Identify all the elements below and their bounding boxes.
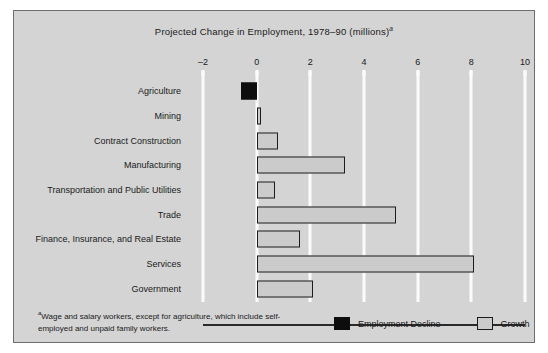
category-label: Services (146, 259, 181, 269)
bar-row: Finance, Insurance, and Real Estate (203, 227, 525, 252)
bar-row: Contract Construction (203, 128, 525, 153)
bar-row: Services (203, 252, 525, 277)
chart-footnote: aWage and salary workers, except for agr… (38, 307, 300, 335)
category-label: Transportation and Public Utilities (47, 185, 181, 195)
legend-swatch-decline-icon (334, 317, 350, 330)
bar-growth (257, 231, 300, 248)
bar-growth (257, 157, 346, 174)
category-label: Finance, Insurance, and Real Estate (35, 234, 181, 244)
chart-title: Projected Change in Employment, 1978–90 … (14, 25, 534, 37)
chart-title-text: Projected Change in Employment, 1978–90 … (155, 26, 389, 37)
category-label: Mining (154, 111, 181, 121)
x-tick-label: 0 (254, 57, 259, 67)
bar-rows: AgricultureMiningContract ConstructionMa… (203, 79, 525, 301)
chart-legend: Employment Decline Growth (334, 317, 530, 330)
bar-growth (257, 181, 276, 198)
plot-area: –20246810 AgricultureMiningContract Cons… (203, 57, 525, 302)
x-tick-label: 4 (361, 57, 366, 67)
bar-decline (241, 83, 257, 100)
bar-growth (257, 255, 474, 272)
chart-figure: Projected Change in Employment, 1978–90 … (13, 10, 535, 343)
legend-swatch-growth-icon (477, 317, 493, 330)
chart-title-superscript: a (389, 25, 393, 32)
category-label: Government (131, 284, 181, 294)
legend-label-growth: Growth (501, 319, 530, 329)
category-label: Manufacturing (124, 160, 181, 170)
x-tick-label: 8 (469, 57, 474, 67)
legend-item-growth: Growth (477, 317, 530, 330)
footnote-text: Wage and salary workers, except for agri… (38, 312, 280, 333)
bar-growth (257, 280, 313, 297)
legend-item-decline: Employment Decline (334, 317, 441, 330)
category-label: Trade (158, 210, 181, 220)
category-label: Contract Construction (94, 136, 181, 146)
bar-row: Government (203, 276, 525, 301)
x-tick-label: 6 (415, 57, 420, 67)
bar-row: Mining (203, 104, 525, 129)
bar-row: Trade (203, 202, 525, 227)
bar-growth (257, 132, 278, 149)
bar-growth (257, 206, 397, 223)
bar-row: Manufacturing (203, 153, 525, 178)
bar-row: Agriculture (203, 79, 525, 104)
legend-label-decline: Employment Decline (358, 319, 441, 329)
bar-growth (257, 107, 261, 124)
x-tick-label: 10 (520, 57, 530, 67)
x-tick-label: 2 (308, 57, 313, 67)
category-label: Agriculture (138, 86, 181, 96)
bar-row: Transportation and Public Utilities (203, 178, 525, 203)
x-tick-label: –2 (198, 57, 208, 67)
